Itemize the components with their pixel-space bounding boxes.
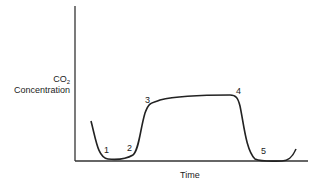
x-axis-label: Time [180, 170, 200, 180]
point-label-3: 3 [145, 95, 150, 105]
point-label-5: 5 [261, 146, 266, 156]
point-label-2: 2 [127, 143, 132, 153]
point-label-4: 4 [236, 86, 241, 96]
y-axis-label-concentration: Concentration [14, 85, 70, 96]
point-label-1: 1 [104, 145, 109, 155]
